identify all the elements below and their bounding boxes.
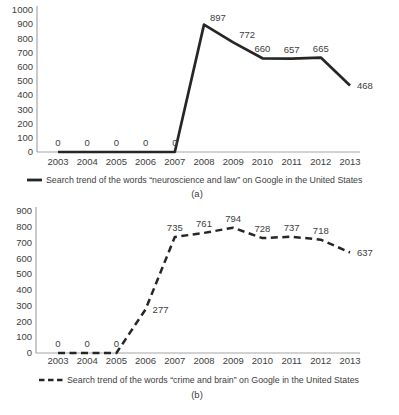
data-label: 660 xyxy=(254,43,270,54)
x-tick-label: 2013 xyxy=(339,156,360,167)
chart-a-plot: 0100200300400500600700800900100020032004… xyxy=(0,0,399,205)
data-label: 0 xyxy=(114,137,119,148)
data-label: 657 xyxy=(284,44,300,55)
chart-a-axes-and-series: 0100200300400500600700800900100020032004… xyxy=(12,4,373,167)
x-tick-label: 2004 xyxy=(77,156,98,167)
chart-a-legend-label: Search trend of the words “neuroscience … xyxy=(46,175,363,185)
x-tick-label: 2013 xyxy=(339,355,360,366)
data-label: 0 xyxy=(172,137,177,148)
x-tick-label: 2006 xyxy=(135,355,156,366)
y-tick-label: 700 xyxy=(16,237,32,248)
y-tick-label: 0 xyxy=(27,347,32,358)
chart-b-axes-and-series: 0100200300400500600700800900200320042005… xyxy=(16,205,373,366)
data-label: 735 xyxy=(167,222,183,233)
x-tick-label: 2012 xyxy=(310,156,331,167)
y-tick-label: 600 xyxy=(16,253,32,264)
data-label: 0 xyxy=(55,137,60,148)
y-tick-label: 300 xyxy=(16,300,32,311)
y-tick-label: 0 xyxy=(28,146,33,157)
x-tick-label: 2003 xyxy=(47,355,68,366)
x-tick-label: 2008 xyxy=(193,355,214,366)
series-line-dashed xyxy=(58,228,350,353)
x-tick-label: 2011 xyxy=(281,355,301,366)
data-label: 772 xyxy=(239,29,255,40)
data-label: 897 xyxy=(210,12,226,23)
y-tick-label: 300 xyxy=(17,104,33,115)
y-tick-label: 200 xyxy=(16,316,32,327)
x-tick-label: 2005 xyxy=(106,156,127,167)
y-tick-label: 400 xyxy=(17,89,33,100)
chart-b-block: 0100200300400500600700800900200320042005… xyxy=(0,205,399,415)
x-tick-label: 2010 xyxy=(252,355,273,366)
y-tick-label: 400 xyxy=(16,284,32,295)
x-tick-label: 2003 xyxy=(47,156,68,167)
data-label: 718 xyxy=(313,225,329,236)
x-tick-label: 2010 xyxy=(252,156,273,167)
data-label: 761 xyxy=(196,218,212,229)
y-tick-label: 900 xyxy=(17,18,33,29)
x-tick-label: 2011 xyxy=(281,156,301,167)
y-tick-label: 200 xyxy=(17,118,33,129)
data-label: 737 xyxy=(284,222,300,233)
y-tick-label: 1000 xyxy=(12,4,33,15)
y-tick-label: 900 xyxy=(16,205,32,216)
chart-b-legend: Search trend of the words “crime and bra… xyxy=(39,375,360,385)
x-tick-label: 2006 xyxy=(135,156,156,167)
y-tick-label: 800 xyxy=(16,221,32,232)
data-label: 665 xyxy=(313,43,329,54)
chart-b-caption: (b) xyxy=(191,389,203,400)
x-tick-label: 2009 xyxy=(223,156,244,167)
data-label: 0 xyxy=(114,338,119,349)
y-tick-label: 100 xyxy=(16,331,32,342)
chart-b-plot: 0100200300400500600700800900200320042005… xyxy=(0,205,399,415)
x-tick-label: 2007 xyxy=(164,156,185,167)
chart-a-block: 0100200300400500600700800900100020032004… xyxy=(0,0,399,205)
x-tick-label: 2008 xyxy=(193,156,214,167)
y-tick-label: 500 xyxy=(16,268,32,279)
chart-a-caption: (a) xyxy=(191,188,203,199)
data-label: 468 xyxy=(357,80,373,91)
y-tick-label: 100 xyxy=(17,132,33,143)
data-label: 728 xyxy=(254,223,270,234)
data-label: 0 xyxy=(85,137,90,148)
x-tick-label: 2004 xyxy=(77,355,98,366)
data-label: 637 xyxy=(357,247,373,258)
figure-search-trend-charts: 0100200300400500600700800900100020032004… xyxy=(0,0,399,415)
x-tick-label: 2009 xyxy=(223,355,244,366)
data-label: 794 xyxy=(225,213,241,224)
series-line-solid xyxy=(58,25,350,152)
y-tick-label: 600 xyxy=(17,61,33,72)
y-tick-label: 700 xyxy=(17,47,33,58)
chart-b-legend-label: Search trend of the words “crime and bra… xyxy=(67,375,360,385)
chart-a-legend: Search trend of the words “neuroscience … xyxy=(27,175,363,185)
x-tick-label: 2012 xyxy=(310,355,331,366)
x-tick-label: 2007 xyxy=(164,355,185,366)
data-label: 0 xyxy=(143,137,148,148)
data-label: 277 xyxy=(153,304,169,315)
data-label: 0 xyxy=(55,338,60,349)
y-tick-label: 500 xyxy=(17,75,33,86)
x-tick-label: 2005 xyxy=(106,355,127,366)
data-label: 0 xyxy=(85,338,90,349)
y-tick-label: 800 xyxy=(17,33,33,44)
